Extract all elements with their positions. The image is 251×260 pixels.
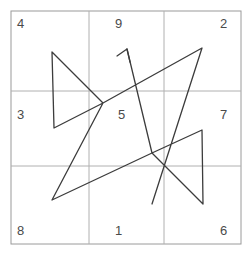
grid-lines: [11, 11, 241, 244]
figure-canvas: [0, 0, 251, 260]
cell-bottom-center: 1: [115, 224, 122, 237]
magic-square-figure: 492357816: [0, 0, 251, 260]
grid-frame: [11, 11, 241, 244]
overlay-path: [52, 48, 203, 204]
cell-top-left: 4: [17, 17, 24, 30]
cell-middle-center: 5: [118, 108, 125, 121]
arrowhead-icon: [117, 49, 130, 62]
cell-middle-right: 7: [220, 108, 227, 121]
cell-bottom-right: 6: [220, 224, 227, 237]
cell-top-right: 2: [220, 17, 227, 30]
cell-bottom-left: 8: [17, 224, 24, 237]
cell-top-center: 9: [115, 17, 122, 30]
cell-middle-left: 3: [17, 108, 24, 121]
